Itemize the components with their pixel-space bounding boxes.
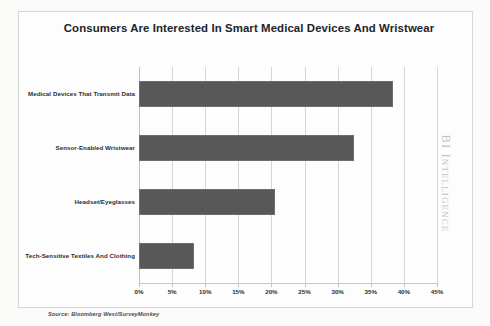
bar[interactable] — [139, 81, 393, 107]
bar[interactable] — [139, 243, 194, 269]
plot-area — [139, 67, 437, 283]
chart-frame: Consumers Are Interested In Smart Medica… — [18, 11, 473, 308]
x-axis-tickmark — [404, 283, 405, 287]
x-tick-label: 30% — [331, 288, 343, 295]
x-tick-label: 15% — [232, 288, 244, 295]
category-label: Headset/Eyeglasses — [75, 198, 135, 205]
x-tick-label: 25% — [298, 288, 310, 295]
x-axis-tickmark — [305, 283, 306, 287]
x-tick-label: 40% — [398, 288, 410, 295]
x-axis-tickmark — [238, 283, 239, 287]
x-axis-tickmark — [205, 283, 206, 287]
x-axis-tickmark — [338, 283, 339, 287]
x-tick-label: 10% — [199, 288, 211, 295]
x-axis-tickmark — [437, 283, 438, 287]
x-tick-label: 35% — [365, 288, 377, 295]
x-axis-tickmark — [139, 283, 140, 287]
source-note: Source: Bloomberg West/SurveyMonkey — [48, 311, 159, 317]
x-tick-label: 45% — [431, 288, 443, 295]
bar-row — [139, 121, 437, 175]
bar-row — [139, 67, 437, 121]
bar-row — [139, 175, 437, 229]
x-axis-tickmark — [271, 283, 272, 287]
bar[interactable] — [139, 189, 275, 215]
watermark-label: BI Intelligence — [439, 135, 454, 233]
x-axis-tickmark — [371, 283, 372, 287]
x-tick-label: 0% — [135, 288, 144, 295]
x-axis-tickmark — [172, 283, 173, 287]
category-label: Sensor-Enabled Wristwear — [56, 144, 135, 151]
bar[interactable] — [139, 135, 354, 161]
x-tick-label: 20% — [265, 288, 277, 295]
category-label: Medical Devices That Transmit Data — [28, 90, 135, 97]
bar-row — [139, 229, 437, 283]
chart-title: Consumers Are Interested In Smart Medica… — [59, 21, 439, 37]
bi-intelligence-watermark: BI Intelligence — [437, 120, 455, 250]
category-label: Tech-Sensitive Textiles And Clothing — [25, 252, 135, 259]
x-axis-tick-labels: 0%5%10%15%20%25%30%35%40%45% — [139, 288, 437, 300]
x-tick-label: 5% — [168, 288, 177, 295]
x-axis-line — [139, 283, 438, 284]
category-axis-labels: Medical Devices That Transmit DataSensor… — [37, 67, 135, 283]
